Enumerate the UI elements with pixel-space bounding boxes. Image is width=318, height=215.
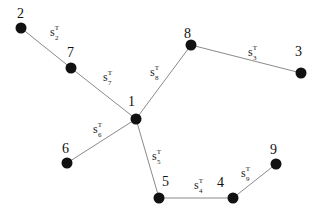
- node-label-2: 2: [17, 6, 24, 21]
- edge-label-s7: sT7: [103, 69, 113, 87]
- edge-label-s6: sT6: [93, 121, 103, 139]
- node-4: [228, 193, 239, 204]
- node-3: [296, 68, 307, 79]
- edge-label-s5: sT5: [152, 148, 162, 166]
- edge-label-s8: sT8: [150, 64, 160, 82]
- edge-1-8: [136, 45, 191, 119]
- edge-label-s3: sT3: [248, 44, 258, 62]
- node-9: [271, 159, 282, 170]
- node-label-8: 8: [184, 26, 191, 41]
- node-label-4: 4: [217, 175, 224, 190]
- edge-8-3: [191, 45, 301, 73]
- node-label-3: 3: [295, 44, 302, 59]
- node-8: [186, 40, 197, 51]
- edge-2-7: [21, 28, 71, 68]
- nodes: [16, 23, 307, 204]
- node-2: [16, 23, 27, 34]
- node-1: [131, 114, 142, 125]
- node-label-9: 9: [270, 142, 277, 157]
- node-label-6: 6: [62, 141, 69, 156]
- edge-label-s2: sT2: [50, 24, 60, 42]
- node-6: [62, 158, 73, 169]
- node-7: [66, 63, 77, 74]
- edge-label-s9: sT9: [241, 165, 251, 183]
- node-5: [154, 193, 165, 204]
- edge-4-9: [233, 164, 276, 198]
- edges: [21, 28, 301, 198]
- edge-labels: sT2sT7sT8sT3sT6sT5sT4sT9: [50, 24, 258, 195]
- tree-graph: sT2sT7sT8sT3sT6sT5sT4sT9 123456789: [0, 0, 318, 215]
- edge-label-s4: sT4: [194, 177, 204, 195]
- node-label-1: 1: [128, 94, 135, 109]
- node-label-5: 5: [162, 174, 169, 189]
- node-label-7: 7: [67, 45, 74, 60]
